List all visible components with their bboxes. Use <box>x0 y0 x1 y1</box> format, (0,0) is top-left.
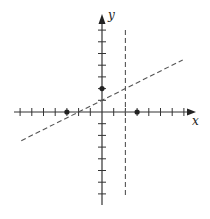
y-axis-arrow-icon <box>99 14 106 24</box>
axes <box>14 14 196 205</box>
point-0-2 <box>99 86 104 91</box>
point-3-0 <box>135 109 140 114</box>
coordinate-plane: x y <box>0 0 210 219</box>
point-neg3-0 <box>64 109 69 114</box>
x-axis-label: x <box>192 114 199 128</box>
y-axis-label: y <box>107 8 115 22</box>
